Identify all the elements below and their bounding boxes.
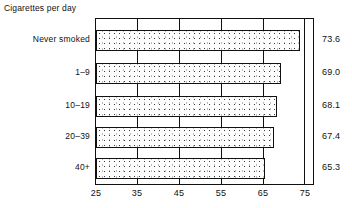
value-label-20-39: 67.4: [322, 131, 340, 141]
value-label-10-19: 68.1: [322, 100, 340, 110]
plot-area: [95, 18, 305, 185]
category-label-10-19: 10–19: [4, 100, 90, 110]
category-axis: Never smoked 1–9 10–19 20–39 40+: [0, 0, 90, 208]
bar-1-9: [96, 63, 281, 84]
bar-40-plus: [96, 158, 265, 179]
category-label-never-smoked: Never smoked: [4, 34, 90, 44]
axis-frame-column: [305, 18, 314, 185]
bar-chart: Cigarettes per day Never smoked 1–9 10–1…: [0, 0, 352, 208]
value-label-1-9: 69.0: [322, 67, 340, 77]
value-label-40-plus: 65.3: [322, 162, 340, 172]
bar-20-39: [96, 127, 274, 148]
category-label-1-9: 1–9: [4, 67, 90, 77]
xtick-label-25: 25: [91, 188, 101, 198]
xtick-label-75: 75: [300, 188, 310, 198]
xtick-label-55: 55: [216, 188, 226, 198]
category-label-20-39: 20–39: [4, 131, 90, 141]
value-label-never-smoked: 73.6: [322, 34, 340, 44]
xtick-label-65: 65: [258, 188, 268, 198]
xtick-label-45: 45: [174, 188, 184, 198]
bar-10-19: [96, 96, 277, 117]
category-label-40-plus: 40+: [4, 162, 90, 172]
bar-never-smoked: [96, 30, 300, 51]
xtick-label-35: 35: [132, 188, 142, 198]
